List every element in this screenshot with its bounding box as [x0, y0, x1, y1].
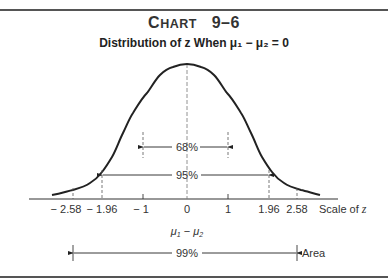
svg-text:99%: 99%: [176, 247, 198, 259]
svg-text:68%: 68%: [176, 141, 198, 153]
interval-68: 68%: [144, 141, 227, 153]
svg-text:1: 1: [225, 203, 231, 215]
normal-distribution-plot: 68% 95% − 2.58 − 1.96 − 1 0 1 1.96 2.58 …: [0, 0, 388, 280]
mu-diff-label: μ1 − μ2: [170, 225, 204, 238]
area-label: Area: [302, 247, 326, 259]
svg-text:− 1.96: − 1.96: [87, 203, 118, 215]
svg-text:0: 0: [184, 203, 190, 215]
svg-text:− 1: − 1: [133, 203, 149, 215]
interval-95: 95%: [103, 169, 268, 181]
svg-text:1.96: 1.96: [258, 203, 279, 215]
scale-label: Scale of z: [319, 202, 367, 216]
svg-text:− 2.58: − 2.58: [51, 203, 82, 215]
svg-text:2.58: 2.58: [286, 203, 307, 215]
interval-99: 99% Area: [73, 245, 326, 261]
tick-labels: − 2.58 − 1.96 − 1 0 1 1.96 2.58 Scale of…: [51, 202, 367, 216]
svg-text:95%: 95%: [176, 169, 198, 181]
